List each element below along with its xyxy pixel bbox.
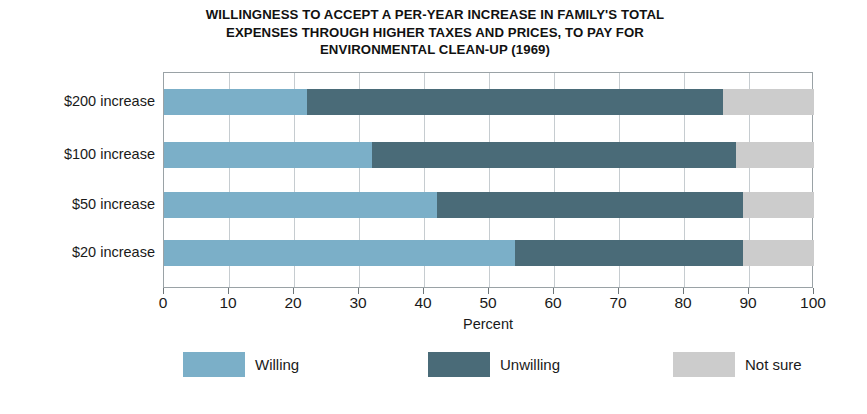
legend-label: Willing bbox=[255, 356, 299, 373]
chart-title-line-1: WILLINGNESS TO ACCEPT A PER-YEAR INCREAS… bbox=[150, 6, 720, 24]
bar-segment-not-sure bbox=[743, 192, 815, 218]
y-axis-label: $200 increase bbox=[5, 92, 155, 110]
bar-segment-willing bbox=[164, 240, 515, 266]
x-tick-label-50: 50 bbox=[479, 294, 496, 312]
plot-area bbox=[163, 72, 813, 288]
legend-item-willing[interactable]: Willing bbox=[183, 352, 299, 377]
bar-row bbox=[164, 142, 812, 168]
bar-segment-willing bbox=[164, 89, 307, 115]
bar-segment-not-sure bbox=[743, 240, 815, 266]
bar-segment-not-sure bbox=[723, 89, 814, 115]
chart-title-line-2: EXPENSES THROUGH HIGHER TAXES AND PRICES… bbox=[150, 24, 720, 42]
legend-swatch-icon bbox=[183, 352, 245, 377]
x-tick-label-80: 80 bbox=[674, 294, 691, 312]
x-axis-title: Percent bbox=[163, 316, 813, 332]
chart-legend: WillingUnwillingNot sure bbox=[163, 352, 823, 382]
legend-swatch-icon bbox=[673, 352, 735, 377]
bar-segment-willing bbox=[164, 142, 372, 168]
bar-row bbox=[164, 240, 812, 266]
bar-segment-not-sure bbox=[736, 142, 814, 168]
legend-label: Unwilling bbox=[500, 356, 560, 373]
bar-segment-unwilling bbox=[515, 240, 743, 266]
bar-segment-unwilling bbox=[437, 192, 743, 218]
bar-segment-willing bbox=[164, 192, 437, 218]
legend-item-not-sure[interactable]: Not sure bbox=[673, 352, 802, 377]
x-tick-label-70: 70 bbox=[609, 294, 626, 312]
legend-swatch-icon bbox=[428, 352, 490, 377]
x-tick-label-90: 90 bbox=[739, 294, 756, 312]
x-tick-label-0: 0 bbox=[159, 294, 168, 312]
y-axis-label: $20 increase bbox=[5, 243, 155, 261]
bar-row bbox=[164, 89, 812, 115]
x-tick-label-100: 100 bbox=[800, 294, 826, 312]
bar-row bbox=[164, 192, 812, 218]
chart-title-line-3: ENVIRONMENTAL CLEAN-UP (1969) bbox=[150, 41, 720, 59]
bar-segment-unwilling bbox=[372, 142, 736, 168]
x-tick-label-10: 10 bbox=[219, 294, 236, 312]
legend-label: Not sure bbox=[745, 356, 802, 373]
y-axis-label: $50 increase bbox=[5, 195, 155, 213]
y-axis-labels: $200 increase$100 increase$50 increase$2… bbox=[0, 72, 155, 288]
x-tick-label-60: 60 bbox=[544, 294, 561, 312]
x-tick-label-40: 40 bbox=[414, 294, 431, 312]
bar-segment-unwilling bbox=[307, 89, 723, 115]
x-tick-label-20: 20 bbox=[284, 294, 301, 312]
chart-title: WILLINGNESS TO ACCEPT A PER-YEAR INCREAS… bbox=[150, 6, 720, 59]
x-axis-tick-labels: 0102030405060708090100 bbox=[163, 294, 813, 314]
legend-item-unwilling[interactable]: Unwilling bbox=[428, 352, 560, 377]
y-axis-label: $100 increase bbox=[5, 145, 155, 163]
x-tick-label-30: 30 bbox=[349, 294, 366, 312]
